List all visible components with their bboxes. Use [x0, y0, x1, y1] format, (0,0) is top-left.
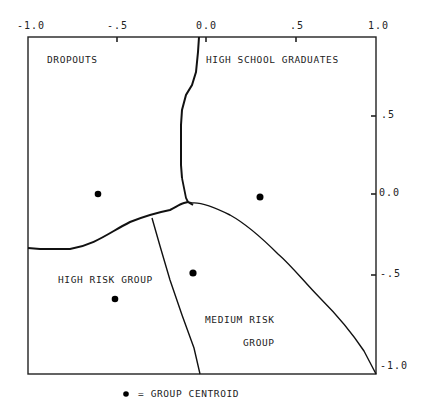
x-tick-label: 1.0	[368, 20, 389, 31]
region-label-high-risk: HIGH RISK GROUP	[58, 274, 153, 285]
centroid-medium-risk	[189, 269, 196, 276]
y-tick-label: -1.0	[380, 360, 408, 371]
plot-frame	[28, 37, 376, 374]
x-tick-label: .5	[290, 20, 304, 31]
legend-text: = GROUP CENTROID	[138, 388, 239, 399]
region-label-hs-graduates: HIGH SCHOOL GRADUATES	[206, 54, 339, 65]
x-tick-label: 0.0	[196, 20, 217, 31]
boundary-dropouts-highrisk	[28, 202, 188, 249]
legend-centroid-marker	[123, 391, 129, 397]
region-label-medium-risk: MEDIUM RISK	[205, 314, 275, 325]
centroid-high-risk	[112, 296, 119, 303]
region-label-medium-risk-group: GROUP	[243, 337, 275, 348]
y-tick-label: 0.0	[379, 187, 400, 198]
centroid-dropouts	[95, 191, 102, 198]
y-tick-label: .5	[381, 109, 395, 120]
x-tick-label: -1.0	[17, 20, 45, 31]
region-label-dropouts: DROPOUTS	[47, 54, 98, 65]
boundary-highrisk-mediumrisk	[152, 218, 200, 374]
boundary-junction	[182, 178, 193, 205]
boundary-hsgrads-mediumrisk	[188, 202, 376, 374]
centroid-hs-graduates	[257, 194, 264, 201]
boundary-dropouts-hsgrads	[181, 37, 199, 178]
x-tick-label: -.5	[107, 20, 128, 31]
y-tick-label: -.5	[380, 268, 401, 279]
